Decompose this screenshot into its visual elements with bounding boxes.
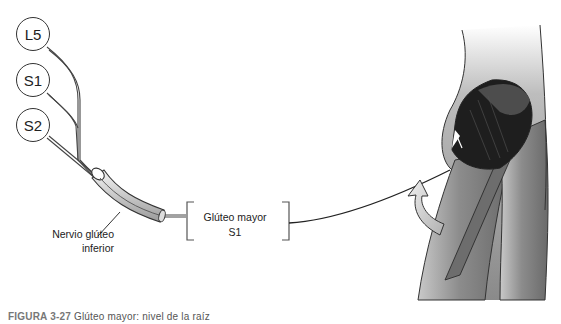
nerve-label-line2: inferior: [26, 241, 114, 255]
muscle-label: Glúteo mayor S1: [190, 210, 280, 240]
nerve-root-strands: [47, 47, 97, 178]
root-label-s1: S1: [16, 63, 50, 97]
hip-illustration: [418, 25, 548, 300]
muscle-root-level: S1: [190, 225, 280, 240]
nerve-label-line1: Nervio glúteo: [26, 227, 114, 241]
figure-caption-text: Glúteo mayor: nivel de la raíz: [74, 311, 210, 322]
muscle-name: Glúteo mayor: [190, 210, 280, 225]
figure-caption: FIGURA 3-27 Glúteo mayor: nivel de la ra…: [8, 311, 210, 322]
figure-number: FIGURA 3-27: [8, 311, 71, 322]
nerve-label: Nervio glúteo inferior: [26, 227, 114, 255]
root-label-l5: L5: [16, 17, 50, 51]
nerve-tube: [89, 166, 186, 236]
root-label-s2: S2: [16, 108, 50, 142]
